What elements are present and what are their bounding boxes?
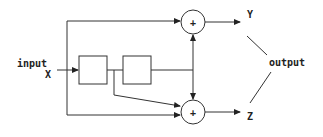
output-brace-top bbox=[247, 36, 267, 55]
adder-top-symbol: + bbox=[190, 17, 196, 28]
delay-block-1 bbox=[79, 56, 107, 84]
block-diagram: + + input X Y Z output bbox=[0, 0, 323, 137]
output-label: output bbox=[269, 57, 305, 68]
input-label: input bbox=[17, 58, 47, 69]
delay-block-2 bbox=[123, 56, 151, 84]
output-brace-bottom bbox=[250, 72, 271, 103]
input-var-label: X bbox=[45, 69, 51, 80]
adder-bottom-symbol: + bbox=[190, 107, 196, 118]
output-z-label: Z bbox=[247, 111, 253, 122]
output-y-label: Y bbox=[247, 9, 253, 20]
